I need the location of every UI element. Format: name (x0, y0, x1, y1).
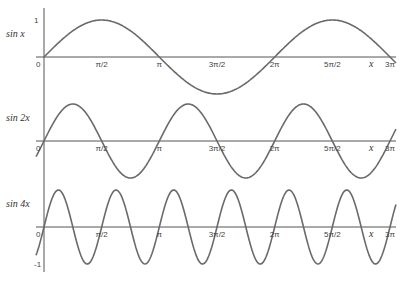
x-tick-label: 3π (385, 230, 395, 239)
x-var-label: x (368, 58, 374, 69)
x-tick-label: 0 (36, 60, 41, 69)
x-tick-label: 0 (36, 144, 41, 153)
x-tick-label: π (157, 230, 163, 239)
x-tick-label: 3π/2 (209, 144, 226, 153)
x-tick-label: 2π (270, 144, 280, 153)
trig-plot: sin x0π/2π3π/22π5π/23πx1sin 2x0π/2π3π/22… (0, 0, 412, 282)
x-tick-label: π/2 (96, 144, 109, 153)
x-tick-label: π (157, 60, 163, 69)
x-tick-label: 2π (270, 230, 280, 239)
x-tick-label: 3π/2 (209, 230, 226, 239)
x-tick-label: 3π (385, 60, 395, 69)
x-var-label: x (368, 142, 374, 153)
y-label-3: sin 4x (6, 198, 30, 209)
x-tick-label: 2π (270, 60, 280, 69)
x-tick-label: 5π/2 (324, 144, 341, 153)
x-tick-label: 3π/2 (209, 60, 226, 69)
y-tick-label: -1 (34, 260, 42, 269)
y-label-1: sin x (6, 28, 25, 39)
x-tick-label: π (157, 144, 163, 153)
x-tick-label: 5π/2 (324, 230, 341, 239)
x-tick-label: 5π/2 (324, 60, 341, 69)
x-tick-label: 0 (36, 230, 41, 239)
x-tick-label: 3π (385, 144, 395, 153)
y-label-2: sin 2x (6, 112, 30, 123)
x-tick-label: π/2 (96, 230, 109, 239)
x-var-label: x (368, 228, 374, 239)
x-tick-label: π/2 (96, 60, 109, 69)
y-tick-label: 1 (34, 16, 39, 25)
